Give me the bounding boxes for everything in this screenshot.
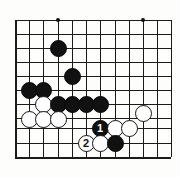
move-number-label: 1 <box>93 121 108 135</box>
black-stone[interactable] <box>107 135 124 152</box>
go-board-diagram: 12 <box>0 0 180 177</box>
grid-line-vertical <box>15 20 17 157</box>
star-point-icon <box>56 18 60 22</box>
grid-line-horizontal <box>15 62 171 63</box>
white-stone[interactable] <box>135 105 152 122</box>
black-stone[interactable] <box>92 96 109 113</box>
white-stone[interactable] <box>121 120 138 137</box>
grid-line-horizontal <box>15 20 171 21</box>
grid-line-horizontal <box>15 48 171 49</box>
grid-line-horizontal <box>15 76 171 77</box>
grid-line-vertical <box>72 20 73 157</box>
move-stone-1[interactable]: 1 <box>92 120 109 137</box>
black-stone[interactable] <box>50 40 67 57</box>
star-point-icon <box>141 18 145 22</box>
grid-line-vertical <box>143 20 144 157</box>
white-stone[interactable] <box>50 111 67 128</box>
grid-line-vertical <box>171 20 172 157</box>
white-stone[interactable] <box>92 135 109 152</box>
black-stone[interactable] <box>64 68 81 85</box>
white-stone[interactable] <box>35 96 52 113</box>
white-stone[interactable] <box>35 111 52 128</box>
grid-line-horizontal <box>15 157 171 159</box>
grid-line-vertical <box>157 20 158 157</box>
grid-line-horizontal <box>15 34 171 35</box>
